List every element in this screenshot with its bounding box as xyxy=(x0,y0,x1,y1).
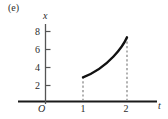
plot-canvas xyxy=(0,0,168,119)
figure-panel: (e) x t O 8 6 4 2 1 2 xyxy=(0,0,168,119)
curve-path xyxy=(83,37,127,77)
